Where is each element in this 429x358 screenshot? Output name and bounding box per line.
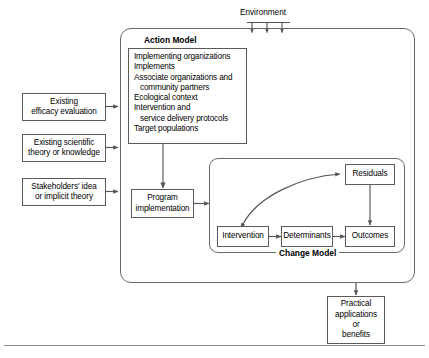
program-theory-diagram: Environment Action Model Implementing or… — [0, 0, 429, 358]
action-item: Implementing organizations — [134, 52, 242, 62]
action-model-heading: Action Model — [144, 35, 197, 45]
node-determinants: Determinants — [281, 226, 333, 247]
node-residuals: Residuals — [345, 164, 395, 185]
node-intervention: Intervention — [217, 226, 269, 247]
environment-label: Environment — [240, 8, 286, 18]
action-item: Intervention and — [134, 103, 242, 113]
practical-applications-label: Practical applications or benefits — [335, 299, 377, 341]
input-box-stakeholders-idea: Stakeholders' idea or implicit theory — [22, 178, 106, 206]
node-outcomes: Outcomes — [345, 226, 395, 247]
change-model-heading: Change Model — [276, 248, 339, 258]
action-item: service delivery protocols — [134, 114, 242, 124]
input-box-efficacy-evaluation: Existing efficacy evaluation — [22, 93, 106, 121]
action-model-list: Implementing organizations Implements As… — [128, 48, 247, 144]
program-implementation-box: Program implementation — [131, 189, 194, 218]
action-item: Target populations — [134, 124, 242, 134]
input-label: Stakeholders' idea or implicit theory — [31, 182, 96, 203]
input-box-scientific-theory: Existing scientific theory or knowledge — [22, 134, 106, 162]
action-item: Associate organizations and — [134, 73, 242, 83]
practical-applications-box: Practical applications or benefits — [327, 296, 385, 344]
input-label: Existing efficacy evaluation — [31, 97, 96, 118]
input-label: Existing scientific theory or knowledge — [28, 138, 100, 159]
program-implementation-label: Program implementation — [135, 193, 189, 214]
action-item: community partners — [134, 83, 242, 93]
bottom-divider-rule — [4, 345, 425, 346]
action-item: Implements — [134, 62, 242, 72]
action-item: Ecological context — [134, 93, 242, 103]
